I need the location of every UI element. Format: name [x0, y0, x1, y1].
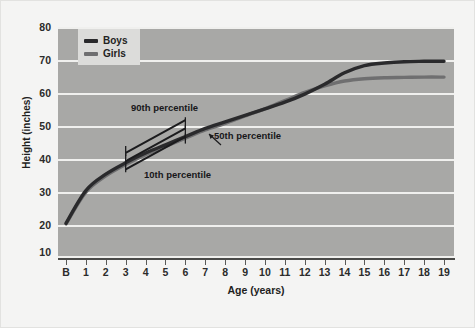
x-axis-tick	[66, 260, 67, 265]
x-axis-tick	[384, 260, 385, 265]
percentile-bracket	[126, 125, 186, 164]
annotation-10th-percentile: 10th percentile	[144, 169, 211, 180]
x-axis-tick	[205, 260, 206, 265]
x-axis-tick	[444, 260, 445, 265]
x-axis-tick	[325, 260, 326, 265]
legend-item-girls: Girls	[84, 47, 140, 60]
x-axis-tick	[285, 260, 286, 265]
ytick-label: 70	[19, 54, 51, 66]
legend-swatch-boys	[84, 39, 98, 43]
x-axis-line	[58, 258, 455, 260]
x-axis-tick	[424, 260, 425, 265]
x-axis-tick	[126, 260, 127, 265]
x-axis-tick	[225, 260, 226, 265]
legend-item-boys: Boys	[84, 34, 140, 47]
legend-swatch-girls	[84, 52, 98, 56]
x-axis-tick	[86, 260, 87, 265]
percentile-bracket	[126, 117, 186, 156]
x-axis-tick	[245, 260, 246, 265]
annotation-90th-percentile: 90th percentile	[131, 102, 198, 113]
ytick-label: 20	[19, 219, 51, 231]
ytick-label: 10	[19, 246, 51, 258]
xtick-label: 19	[432, 266, 456, 278]
x-axis-tick	[364, 260, 365, 265]
annotation-50th-percentile: 50th percentile	[214, 130, 281, 141]
x-axis-tick	[146, 260, 147, 265]
x-axis-tick	[265, 260, 266, 265]
ytick-label: 80	[19, 21, 51, 33]
x-axis-tick	[404, 260, 405, 265]
growth-chart-figure: 80 70 60 50 40 30 20 10 Height (inches) …	[0, 0, 475, 328]
legend-label-girls: Girls	[103, 48, 126, 59]
legend: Boys Girls	[78, 29, 140, 65]
ytick-label: 30	[19, 186, 51, 198]
percentile-bracket	[126, 134, 186, 173]
x-axis-tick	[305, 260, 306, 265]
y-axis-title: Height (inches)	[21, 78, 32, 188]
x-axis-tick	[165, 260, 166, 265]
x-axis-tick	[185, 260, 186, 265]
x-axis-title: Age (years)	[58, 284, 454, 296]
x-axis-tick	[106, 260, 107, 265]
x-axis-tick	[345, 260, 346, 265]
legend-label-boys: Boys	[103, 35, 127, 46]
